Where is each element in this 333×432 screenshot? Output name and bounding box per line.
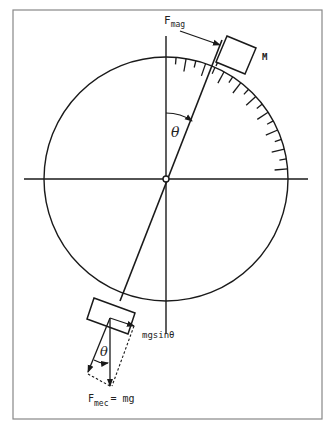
tick-mark (257, 104, 263, 108)
tick-mark (266, 130, 278, 135)
theta-arc-bottom (94, 360, 108, 363)
angle-scale-ticks (176, 57, 288, 170)
tick-mark (257, 112, 268, 119)
tick-mark (267, 121, 273, 124)
tick-mark (229, 77, 233, 83)
mass-block-bottom (87, 298, 135, 334)
tick-mark (244, 89, 249, 94)
pivot-point (163, 176, 169, 182)
f-mec-label: Fmec= mg (88, 393, 135, 408)
tick-mark (201, 64, 205, 76)
theta-label-top: θ (171, 124, 180, 140)
theta-label-bottom: θ (100, 344, 108, 359)
tick-mark (246, 96, 256, 105)
tick-mark (272, 149, 285, 152)
tick-mark (212, 67, 215, 73)
parallelogram-dashed-bottom (88, 374, 110, 386)
f-mag-arrow (180, 31, 220, 45)
tick-mark (176, 57, 177, 64)
theta-arc-top (166, 113, 192, 121)
figure-frame (13, 10, 322, 419)
tick-mark (194, 61, 196, 68)
f-mag-label: Fmag (164, 14, 185, 29)
tick-mark (233, 83, 241, 93)
mg-sin-theta-label: mgsinθ (142, 330, 175, 340)
tick-mark (275, 169, 288, 170)
tick-mark (279, 159, 286, 160)
tick-mark (184, 59, 186, 72)
tick-mark (275, 139, 282, 141)
tick-mark (218, 72, 224, 83)
pendulum-rod (120, 40, 222, 301)
mass-label: M (262, 52, 268, 62)
parallelogram-dashed-right (112, 326, 134, 386)
pendulum-diagram: Fmag M θ mgsinθ θ Fmec= mg (0, 0, 333, 432)
